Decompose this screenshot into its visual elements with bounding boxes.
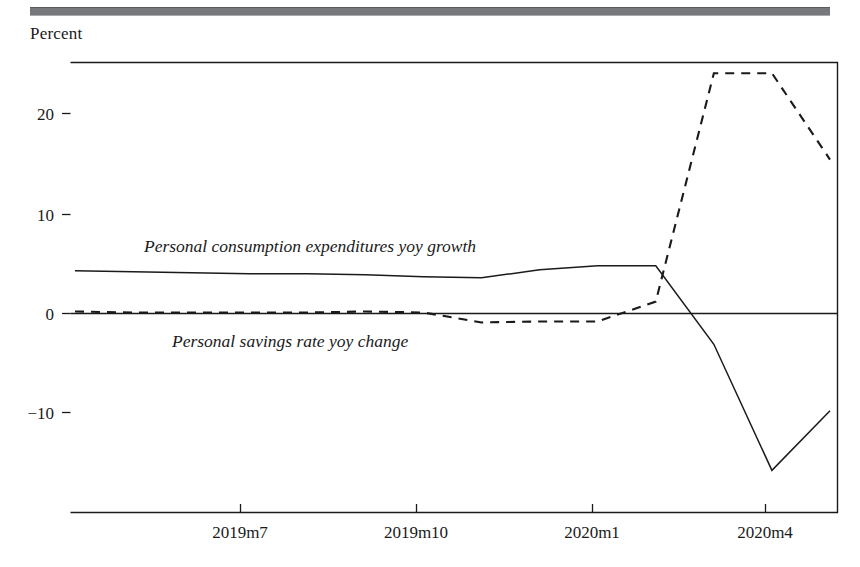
x-tick-label-2020m4: 2020m4 <box>737 523 793 542</box>
line-chart-plot: 20 10 0 −10 2019m7 2019m10 2020m1 2020m4… <box>0 0 860 567</box>
x-axis-ticks <box>241 504 766 513</box>
chart-figure: Percent 20 10 0 −10 2019m7 2019m10 2020m… <box>0 0 860 567</box>
y-tick-label-20: 20 <box>37 105 54 124</box>
plot-frame <box>71 63 838 513</box>
annotation-pce-growth: Personal consumption expenditures yoy gr… <box>143 236 476 256</box>
y-tick-label-minus-10: −10 <box>27 404 54 423</box>
y-axis-ticks <box>62 114 71 413</box>
x-tick-label-2019m10: 2019m10 <box>384 523 448 542</box>
y-tick-label-10: 10 <box>37 206 54 225</box>
series-line-personal-savings-rate <box>75 73 830 322</box>
y-tick-label-0: 0 <box>46 305 55 324</box>
x-tick-label-2019m7: 2019m7 <box>212 523 268 542</box>
series-line-personal-consumption-expenditures <box>75 266 830 471</box>
annotation-savings-rate: Personal savings rate yoy change <box>171 331 408 351</box>
x-tick-label-2020m1: 2020m1 <box>564 523 620 542</box>
